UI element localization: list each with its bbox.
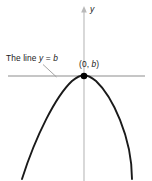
y-axis-arrowhead-icon — [81, 6, 87, 13]
line-label-var-b: b — [53, 53, 58, 63]
line-label-prefix: The line — [6, 53, 39, 63]
vertex-point-marker — [81, 73, 88, 80]
parabola-figure: y The line y = b (0, b) — [0, 0, 152, 181]
vertex-coordinate-label: (0, b) — [79, 60, 99, 68]
parabola-curve — [22, 75, 132, 179]
vertex-label-open: (0, — [79, 59, 92, 69]
y-axis-label: y — [90, 5, 94, 14]
vertex-label-close: ) — [96, 59, 99, 69]
line-label-equals: = — [43, 53, 53, 63]
figure-canvas — [0, 0, 152, 181]
leader-line — [43, 65, 57, 78]
line-equation-label: The line y = b — [6, 54, 58, 62]
